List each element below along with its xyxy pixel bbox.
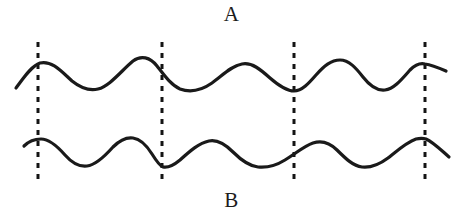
wave-label-b: B — [0, 190, 463, 211]
wave-figure: A B — [0, 0, 463, 221]
wave-label-a: A — [0, 4, 463, 25]
